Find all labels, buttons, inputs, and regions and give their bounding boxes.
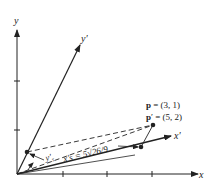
- projection-line: [141, 125, 153, 147]
- coordinate-diagram: x y y′ x′ y′s x′s = 5√26/9 p = (3, 1) p′…: [0, 0, 214, 186]
- y-prime-point: [25, 150, 30, 155]
- x-s-arrow: [118, 146, 138, 147]
- x-axis-label: x: [198, 169, 204, 180]
- y-s-arrow: [30, 154, 44, 160]
- x-prime-axis-label: x′: [173, 130, 181, 141]
- x-axis: [17, 171, 198, 177]
- y-axis: [14, 30, 20, 174]
- x-s-label: x′s = 5√26/9: [61, 144, 109, 164]
- y-s-label: y′s: [43, 151, 55, 164]
- y-prime-axis-label: y′: [80, 33, 88, 44]
- p-label: p = (3, 1): [146, 100, 180, 110]
- x-prime-point: [139, 145, 144, 150]
- p-prime-label: p′ = (5, 2): [146, 112, 182, 122]
- p-prime-point: [151, 123, 156, 128]
- y-axis-label: y: [13, 15, 19, 26]
